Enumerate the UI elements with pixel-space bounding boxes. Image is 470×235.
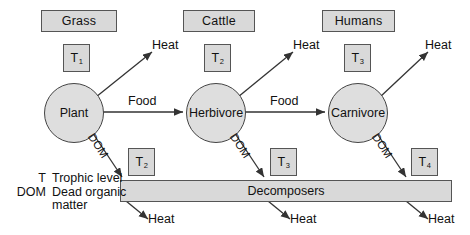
trophic-box-t2-bottom: T2 xyxy=(128,148,155,176)
legend-key: DOM xyxy=(8,186,52,200)
trophic-label: T xyxy=(136,155,144,169)
heat-arrow-decomposers-3 xyxy=(406,201,428,219)
example-label: Grass xyxy=(62,14,96,28)
energy-flow-diagram: Grass Cattle Humans T1 T2 T3 Plant Herbi… xyxy=(0,0,470,235)
heat-label-decomposers-3: Heat xyxy=(428,212,454,226)
decomposers-bar: Decomposers xyxy=(120,180,452,202)
trophic-box-t1: T1 xyxy=(63,44,90,72)
legend-value: matter xyxy=(52,199,87,213)
trophic-subscript: 1 xyxy=(79,57,83,66)
legend-row-dom: DOM Dead organic xyxy=(8,186,126,200)
example-label: Cattle xyxy=(202,14,236,28)
heat-label-decomposers-1: Heat xyxy=(148,212,174,226)
heat-arrow-plant xyxy=(96,52,152,97)
trophic-box-t3-bottom: T3 xyxy=(270,148,297,176)
example-box-humans: Humans xyxy=(322,10,395,32)
legend-value: Dead organic xyxy=(52,186,126,200)
legend-value: Trophic level xyxy=(52,172,122,186)
trophic-subscript: 4 xyxy=(427,161,431,170)
heat-label-decomposers-2: Heat xyxy=(290,212,316,226)
heat-label-plant: Heat xyxy=(152,38,178,52)
example-box-cattle: Cattle xyxy=(183,10,255,32)
organism-label: Herbivore xyxy=(189,106,243,120)
trophic-box-t4-bottom: T4 xyxy=(411,148,438,176)
trophic-subscript: 3 xyxy=(286,161,290,170)
trophic-subscript: 2 xyxy=(220,57,224,66)
organism-label: Plant xyxy=(60,106,89,120)
food-label-1: Food xyxy=(128,94,157,108)
heat-arrow-carnivore xyxy=(380,52,428,97)
heat-arrow-decomposers-1 xyxy=(126,201,148,219)
trophic-label: T xyxy=(212,51,220,65)
trophic-box-t3-top: T3 xyxy=(344,44,371,72)
legend-key: T xyxy=(8,172,52,186)
decomposers-label: Decomposers xyxy=(247,184,324,198)
trophic-label: T xyxy=(71,51,79,65)
food-label-2: Food xyxy=(270,94,299,108)
legend-key xyxy=(8,199,52,213)
trophic-label: T xyxy=(352,51,360,65)
trophic-label: T xyxy=(278,155,286,169)
trophic-subscript: 3 xyxy=(360,57,364,66)
trophic-label: T xyxy=(419,155,427,169)
heat-arrow-decomposers-2 xyxy=(268,201,290,219)
legend: T Trophic level DOM Dead organic matter xyxy=(8,172,126,213)
example-box-grass: Grass xyxy=(41,10,117,32)
example-label: Humans xyxy=(335,14,383,28)
legend-row-trophic: T Trophic level xyxy=(8,172,126,186)
trophic-box-t2-top: T2 xyxy=(204,44,231,72)
legend-row-dom-cont: matter xyxy=(8,199,126,213)
organism-label: Carnivore xyxy=(331,106,385,120)
trophic-subscript: 2 xyxy=(144,161,148,170)
heat-label-carnivore: Heat xyxy=(425,38,451,52)
heat-arrow-herbivore xyxy=(238,52,293,97)
heat-label-herbivore: Heat xyxy=(293,38,319,52)
